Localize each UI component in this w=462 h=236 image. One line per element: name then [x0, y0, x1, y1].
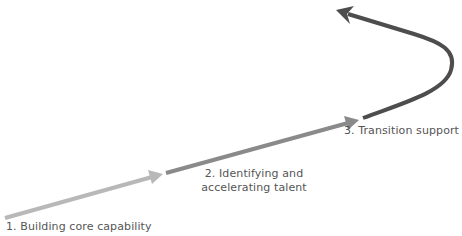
stage-2-label-line1: 2. Identifying and	[190, 167, 318, 181]
stage-3-line	[348, 14, 452, 118]
stage-1-arrowhead-icon	[148, 170, 163, 184]
stage-1-arrow	[5, 170, 163, 218]
progression-diagram	[0, 0, 462, 236]
stage-1-label: 1. Building core capability	[6, 220, 152, 234]
stage-3-arrow	[336, 6, 452, 118]
stage-1-line	[5, 177, 152, 218]
stage-2-arrow	[166, 116, 359, 173]
stage-2-label-line2: accelerating talent	[190, 181, 318, 195]
stage-3-label: 3. Transition support	[344, 124, 459, 138]
stage-2-label: 2. Identifying and accelerating talent	[190, 167, 318, 195]
stage-2-line	[166, 123, 348, 173]
